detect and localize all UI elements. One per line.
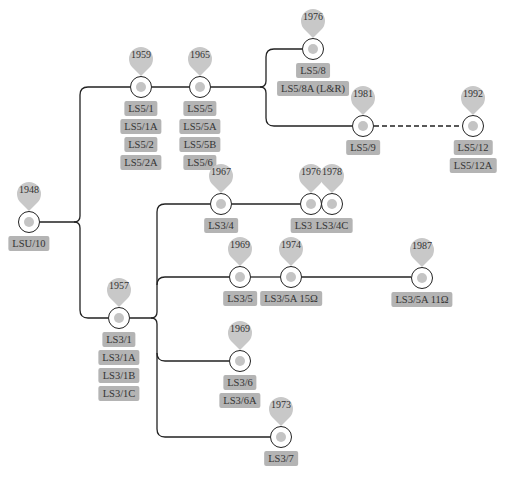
model-tag: LS5/1A — [120, 119, 161, 134]
model-tag: LS5/5B — [180, 137, 221, 152]
year-label: 1981 — [343, 88, 383, 99]
model-tag: LSU/10 — [8, 236, 49, 251]
model-tag: LS5/2 — [124, 137, 158, 152]
year-label: 1974 — [271, 239, 311, 250]
model-tag: LS3/6A — [219, 393, 260, 408]
year-label: 1965 — [180, 49, 220, 60]
model-labels: LS5/9 — [346, 140, 380, 155]
model-labels: LS5/12LS5/12A — [450, 140, 497, 173]
model-tag: LS3/6 — [223, 375, 257, 390]
model-node[interactable] — [229, 266, 251, 288]
model-labels: LS3/1LS3/1ALS3/1BLS3/1C — [98, 332, 139, 401]
model-tag: LS5/12 — [454, 140, 493, 155]
node-dot-icon — [417, 273, 427, 283]
node-dot-icon — [235, 272, 245, 282]
year-label: 1978 — [312, 166, 352, 177]
year-label: 1976 — [293, 11, 333, 22]
model-labels: LS3/5 — [223, 291, 257, 306]
model-tag: LS3/7 — [264, 451, 298, 466]
model-node[interactable] — [210, 193, 232, 215]
model-labels: LS3/7 — [264, 451, 298, 466]
model-node[interactable] — [18, 211, 40, 233]
model-tag: LS5/12A — [450, 158, 497, 173]
model-tag: LS5/1 — [124, 101, 158, 116]
year-label: 1957 — [99, 280, 139, 291]
node-dot-icon — [306, 199, 316, 209]
lineage-diagram: 1948LSU/101959LS5/1LS5/1ALS5/2LS5/2A1965… — [0, 0, 505, 477]
model-tag: LS3/4 — [204, 218, 238, 233]
model-labels: LS3/5A 15Ω — [260, 291, 322, 306]
model-tag: LS3/4C — [312, 218, 353, 233]
model-node[interactable] — [130, 76, 152, 98]
model-labels: LS3/6LS3/6A — [219, 375, 260, 408]
model-node[interactable] — [302, 38, 324, 60]
model-tag: LS3/1A — [98, 350, 139, 365]
model-tag: LS5/2A — [120, 155, 161, 170]
model-labels: LS5/8LS5/8A (L&R) — [277, 63, 349, 96]
model-node[interactable] — [108, 307, 130, 329]
model-tag: LS5/8A (L&R) — [277, 81, 349, 96]
node-dot-icon — [327, 199, 337, 209]
model-tag: LS3/5A 11Ω — [391, 292, 452, 307]
node-dot-icon — [216, 199, 226, 209]
model-node[interactable] — [280, 266, 302, 288]
node-dot-icon — [195, 82, 205, 92]
model-node[interactable] — [270, 426, 292, 448]
model-node[interactable] — [321, 193, 343, 215]
model-tag: LS3/1 — [102, 332, 136, 347]
model-tag: LS3/5A 15Ω — [260, 291, 322, 306]
model-tag: LS5/5 — [183, 101, 217, 116]
year-label: 1969 — [220, 323, 260, 334]
model-labels: LS3/4C — [312, 218, 353, 233]
model-tag: LS5/9 — [346, 140, 380, 155]
node-dot-icon — [136, 82, 146, 92]
model-node[interactable] — [229, 350, 251, 372]
year-label: 1987 — [402, 240, 442, 251]
model-labels: LSU/10 — [8, 236, 49, 251]
year-label: 1967 — [201, 166, 241, 177]
year-label: 1973 — [261, 399, 301, 410]
model-labels: LS5/5LS5/5ALS5/5BLS5/6 — [179, 101, 220, 170]
model-tag: LS3/1C — [99, 386, 140, 401]
model-node[interactable] — [352, 115, 374, 137]
node-dot-icon — [468, 121, 478, 131]
year-label: 1959 — [121, 49, 161, 60]
node-dot-icon — [358, 121, 368, 131]
model-labels: LS3/4 — [204, 218, 238, 233]
node-dot-icon — [276, 432, 286, 442]
model-tag: LS3/1B — [99, 368, 140, 383]
model-node[interactable] — [462, 115, 484, 137]
model-labels: LS5/1LS5/1ALS5/2LS5/2A — [120, 101, 161, 170]
model-tag: LS3/5 — [223, 291, 257, 306]
node-dot-icon — [114, 313, 124, 323]
year-label: 1992 — [453, 88, 493, 99]
year-label: 1969 — [220, 239, 260, 250]
model-tag: LS5/5A — [179, 119, 220, 134]
node-dot-icon — [235, 356, 245, 366]
model-node[interactable] — [411, 267, 433, 289]
model-node[interactable] — [300, 193, 322, 215]
model-node[interactable] — [189, 76, 211, 98]
node-dot-icon — [24, 217, 34, 227]
model-tag: LS5/8 — [296, 63, 330, 78]
node-dot-icon — [308, 44, 318, 54]
node-dot-icon — [286, 272, 296, 282]
year-label: 1948 — [9, 184, 49, 195]
model-labels: LS3/5A 11Ω — [391, 292, 452, 307]
